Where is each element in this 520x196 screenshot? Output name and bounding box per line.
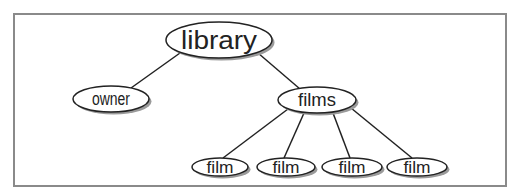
edge-films-film2 — [284, 113, 304, 158]
node-label: library — [181, 25, 257, 55]
node-library: library — [166, 22, 275, 61]
node-label: films — [298, 90, 336, 110]
node-label: owner — [92, 89, 130, 109]
node-films: films — [278, 87, 359, 116]
node-owner: owner — [73, 86, 152, 115]
edge-films-film4 — [351, 108, 412, 158]
node-label: film — [273, 159, 300, 176]
edge-library-owner — [131, 53, 180, 88]
node-label: film — [207, 159, 234, 176]
edge-films-film1 — [223, 109, 288, 158]
node-label: film — [339, 159, 366, 176]
edge-films-film3 — [333, 113, 350, 158]
node-film2: film — [257, 158, 318, 179]
node-film1: film — [192, 158, 251, 179]
node-film3: film — [322, 158, 385, 179]
node-label: film — [404, 159, 431, 176]
edge-library-films — [258, 53, 300, 89]
tree-diagram: libraryownerfilmsfilmfilmfilmfilm — [0, 0, 520, 196]
node-film4: film — [387, 158, 450, 179]
